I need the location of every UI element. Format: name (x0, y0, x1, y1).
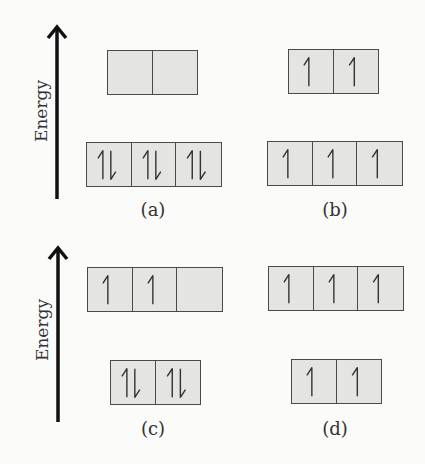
orbital-box-up (314, 267, 359, 310)
orbital-box-empty (108, 51, 153, 94)
orbital-box-paired (132, 143, 177, 186)
orbital-row-upper (87, 267, 223, 312)
orbital-box-up (88, 268, 133, 311)
energy-axis-label: Energy (32, 290, 52, 370)
orbital-row-lower (291, 359, 382, 404)
panel-caption-a: (a) (133, 199, 173, 220)
spin-up-arrow-icon (88, 268, 132, 311)
spin-up-arrow-icon (133, 268, 177, 311)
orbital-box-up (289, 50, 334, 93)
orbital-box-up (334, 50, 379, 93)
orbital-box-paired (176, 143, 221, 186)
spin-up-arrow-icon (334, 50, 379, 93)
spin-up-arrow-icon (313, 142, 357, 185)
orbital-box-up (292, 360, 337, 403)
orbital-box-paired (156, 361, 201, 404)
spin-up-arrow-icon (357, 142, 402, 185)
orbital-box-up (268, 142, 313, 185)
paired-spin-arrows-icon (111, 361, 155, 404)
orbital-box-up (313, 142, 358, 185)
spin-up-arrow-icon (292, 360, 336, 403)
spin-up-arrow-icon (269, 267, 313, 310)
orbital-box-up (337, 360, 382, 403)
spin-up-arrow-icon (337, 360, 382, 403)
panel-caption-b: (b) (315, 199, 355, 220)
panel-caption-c: (c) (133, 418, 173, 439)
orbital-row-lower (86, 142, 222, 187)
orbital-box-up (358, 267, 403, 310)
orbital-box-empty (153, 51, 198, 94)
panel-caption-d: (d) (315, 418, 355, 439)
orbital-row-upper (107, 50, 198, 95)
orbital-box-up (357, 142, 402, 185)
spin-up-arrow-icon (358, 267, 403, 310)
paired-spin-arrows-icon (87, 143, 131, 186)
orbital-row-upper (288, 49, 379, 94)
orbital-row-upper (268, 266, 404, 311)
spin-up-arrow-icon (289, 50, 333, 93)
energy-axis-label: Energy (31, 71, 51, 151)
orbital-box-up (269, 267, 314, 310)
orbital-row-lower (110, 360, 201, 405)
paired-spin-arrows-icon (156, 361, 201, 404)
orbital-box-paired (111, 361, 156, 404)
spin-up-arrow-icon (268, 142, 312, 185)
paired-spin-arrows-icon (132, 143, 176, 186)
spin-up-arrow-icon (314, 267, 358, 310)
paired-spin-arrows-icon (176, 143, 221, 186)
orbital-box-up (133, 268, 178, 311)
orbital-box-empty (177, 268, 222, 311)
orbital-row-lower (267, 141, 403, 186)
orbital-box-paired (87, 143, 132, 186)
